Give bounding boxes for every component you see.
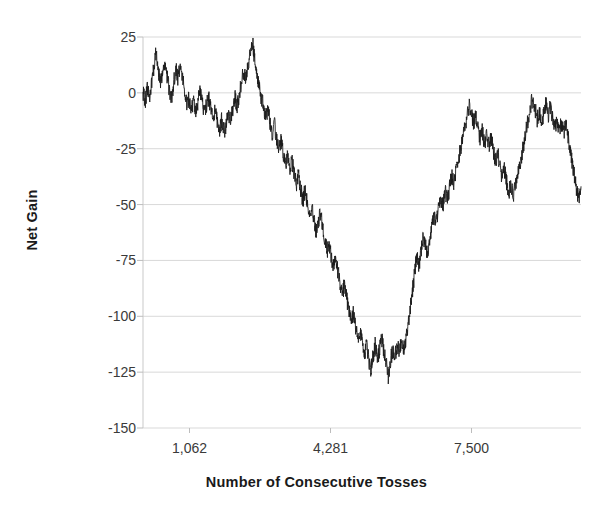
y-tick-label: 0 xyxy=(76,85,136,101)
y-tick-label: 25 xyxy=(76,29,136,45)
y-axis-tick-labels: 250-25-50-75-100-125-150 xyxy=(70,0,136,514)
y-tick-label: -50 xyxy=(76,197,136,213)
x-tick-label: 1,062 xyxy=(172,440,207,456)
y-tick-label: -25 xyxy=(76,141,136,157)
y-tick-label: -75 xyxy=(76,252,136,268)
y-tick-label: -150 xyxy=(76,420,136,436)
chart-container: Net Gain 250-25-50-75-100-125-150 1,0624… xyxy=(0,0,593,514)
axis-tick-marks xyxy=(137,37,472,433)
y-tick-label: -100 xyxy=(76,308,136,324)
x-axis-title: Number of Consecutive Tosses xyxy=(0,474,593,490)
y-tick-label: -125 xyxy=(76,364,136,380)
net-gain-line-series xyxy=(143,38,581,384)
x-tick-label: 7,500 xyxy=(454,440,489,456)
x-tick-label: 4,281 xyxy=(313,440,348,456)
